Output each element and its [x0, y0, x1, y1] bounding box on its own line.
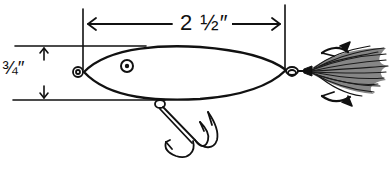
- lure-diagram: 2 ½″ ¾″: [0, 0, 390, 172]
- dressed-tail-hook: [304, 42, 388, 106]
- eye-icon: [121, 60, 133, 72]
- tail-eyelet: [286, 67, 306, 76]
- height-dimension-label: ¾″: [2, 58, 25, 77]
- feather-fill: [312, 48, 388, 94]
- height-dimension-arrows: [40, 48, 48, 98]
- belly-treble-hook: [155, 100, 218, 157]
- lure-body: [84, 46, 286, 99]
- length-dimension-label: 2 ½″: [176, 12, 232, 34]
- line-tie-eyelet: [73, 67, 83, 77]
